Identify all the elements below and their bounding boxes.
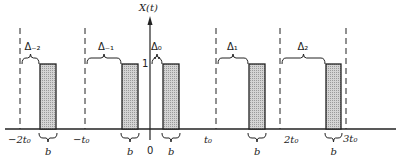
origin-label: 0 (147, 145, 153, 156)
delta-label: Δ₋₂ (25, 41, 41, 52)
delta-label: Δ₀ (151, 41, 162, 52)
width-brace (162, 133, 180, 142)
pulse-width-label: b (168, 146, 174, 157)
rectangular-pulse (326, 64, 341, 129)
pulse-width-label: b (331, 146, 337, 157)
delta-label: Δ₁ (227, 41, 238, 52)
delta-brace (282, 54, 325, 64)
delta-brace (218, 54, 248, 64)
rectangular-pulse (249, 64, 265, 129)
rectangular-pulse (40, 64, 56, 129)
pulse-width-label: b (45, 146, 51, 157)
width-brace (248, 133, 266, 142)
pulse-width-label: b (127, 146, 133, 157)
rectangular-pulse (122, 64, 138, 129)
delta-brace (152, 54, 162, 64)
tick-label: −2t₀ (8, 134, 31, 145)
rectangular-pulse (163, 64, 179, 129)
delta-label: Δ₂ (298, 41, 309, 52)
delta-brace (22, 54, 39, 64)
width-brace (39, 133, 57, 142)
y-axis-label: X(t) (138, 2, 158, 13)
tick-label: t₀ (204, 134, 212, 145)
tick-label: 2t₀ (283, 134, 298, 145)
delta-brace (87, 54, 121, 64)
tick-label: 3t₀ (343, 133, 357, 144)
tick-label: −t₀ (73, 134, 89, 145)
delta-label: Δ₋₁ (98, 41, 114, 52)
pulse-train-diagram: X(t) 1 0 −2t₀−t₀t₀2t₀3t₀Δ₋₂bΔ₋₁bΔ₀bΔ₁bΔ₂… (0, 0, 403, 168)
amplitude-label: 1 (142, 58, 148, 69)
pulse-width-label: b (254, 146, 260, 157)
width-brace (325, 133, 342, 142)
width-brace (121, 133, 139, 142)
axis-arrow-icon (148, 16, 153, 25)
